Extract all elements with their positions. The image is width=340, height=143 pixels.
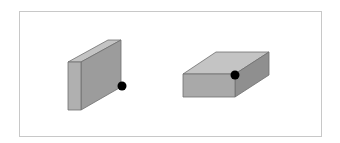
figure-canvas	[0, 0, 340, 143]
flat-box-corner-marker	[231, 71, 240, 80]
upright-box-corner-marker	[118, 82, 127, 91]
upright-box-front-face	[68, 62, 81, 110]
upright-box	[68, 40, 127, 110]
flat-box	[183, 52, 269, 97]
flat-box-front-face	[183, 74, 235, 97]
